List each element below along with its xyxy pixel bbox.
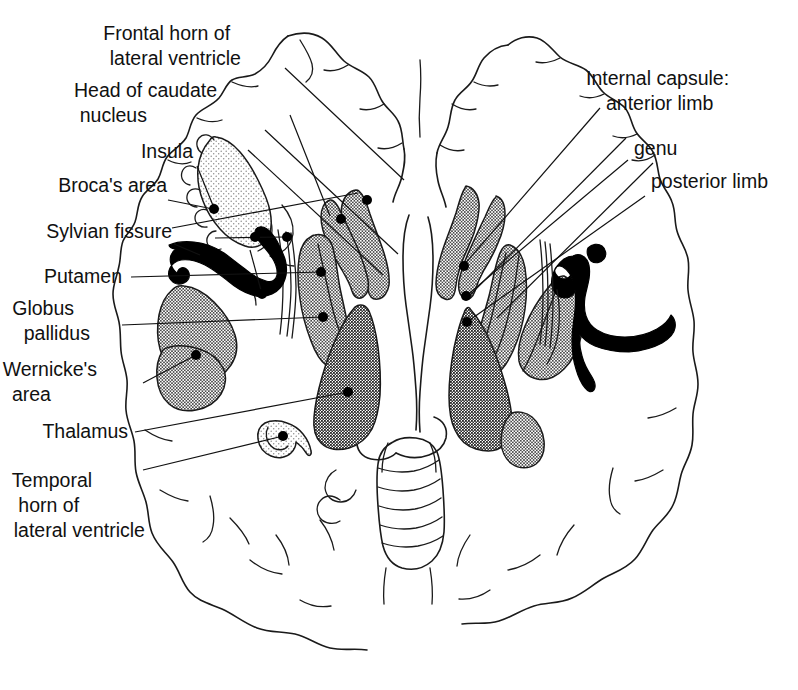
right-medial-fold-2 bbox=[452, 104, 476, 110]
label-frontal-horn-line2: lateral ventricle bbox=[110, 47, 241, 69]
label-internal-capsule: Internal capsule: anterior limb bbox=[586, 67, 767, 114]
right-medial-top-outline bbox=[437, 45, 508, 153]
label-posterior-limb: posterior limb bbox=[651, 170, 768, 192]
right-inferior-fold-2 bbox=[508, 555, 540, 570]
left-temporal-cleft bbox=[203, 496, 214, 542]
peduncle-line-right bbox=[430, 443, 436, 472]
right-temporal-fold-1 bbox=[648, 408, 676, 418]
label-globus-pallidus-line2: pallidus bbox=[24, 322, 90, 344]
left-extreme-capsule-line-2 bbox=[291, 233, 296, 338]
insula-gyral-border-3 bbox=[195, 209, 207, 227]
dot-thalamus-left bbox=[343, 387, 353, 397]
dot-sylvian-junction bbox=[250, 232, 260, 242]
left-inferior-fold-4 bbox=[300, 600, 331, 607]
caudate-tail-right-region bbox=[501, 412, 544, 468]
left-medial-fold-1 bbox=[324, 65, 348, 71]
label-wernickes-area-line2: area bbox=[12, 383, 51, 405]
label-temporal-horn-line1: Temporal bbox=[12, 469, 92, 491]
leader-temporal-horn bbox=[143, 436, 283, 470]
right-temporal-cleft bbox=[609, 468, 620, 514]
label-wernickes-area-line1: Wernicke's bbox=[3, 358, 98, 380]
left-inferior-fold-3 bbox=[320, 520, 334, 550]
label-temporal-horn-line2: horn of bbox=[18, 494, 79, 516]
label-head-of-caudate: Head of caudate nucleus bbox=[74, 79, 255, 126]
dot-wernicke bbox=[191, 350, 201, 360]
left-uncus-hook bbox=[317, 496, 340, 523]
left-temporal-fold-3 bbox=[230, 518, 249, 544]
label-globus-pallidus: Globus pallidus bbox=[12, 297, 117, 344]
label-frontal-horn: Frontal horn of lateral ventricle bbox=[103, 22, 268, 69]
right-temporal-fold-2 bbox=[635, 470, 663, 481]
dot-sylvian-right bbox=[282, 232, 292, 242]
dot-caudate-left-small bbox=[336, 214, 346, 224]
label-head-of-caudate-line2: nucleus bbox=[80, 104, 147, 126]
label-insula: Insula bbox=[141, 140, 193, 162]
labels-right-group: Internal capsule: anterior limb genu pos… bbox=[586, 67, 768, 192]
left-inferior-fold-2 bbox=[276, 535, 289, 565]
medulla-left-edge bbox=[384, 568, 386, 604]
left-medial-top-outline bbox=[288, 33, 404, 149]
third-ventricle-outline-right bbox=[419, 217, 433, 432]
label-thalamus: Thalamus bbox=[42, 420, 128, 442]
left-medial-fold-2 bbox=[360, 104, 384, 110]
dot-putamen-branch bbox=[257, 289, 267, 299]
pons-transverse-fiber-4 bbox=[380, 517, 442, 529]
right-medial-wall bbox=[436, 153, 446, 207]
dot-internal-capsule-anterior bbox=[459, 261, 469, 271]
label-wernickes-area: Wernicke's area bbox=[3, 358, 135, 405]
left-gyrus-fold-2 bbox=[197, 118, 222, 122]
right-inferior-fold-1 bbox=[557, 525, 574, 555]
caudate-tail-right-group bbox=[501, 412, 544, 468]
interhemispheric-fissure bbox=[419, 60, 421, 137]
left-temporal-fold-1 bbox=[145, 430, 172, 441]
left-hippocampus-hook bbox=[325, 470, 356, 502]
label-temporal-horn: Temporal horn of lateral ventricle bbox=[12, 469, 172, 541]
sylvian-right-spur-1 bbox=[587, 244, 606, 262]
label-putamen: Putamen bbox=[44, 265, 122, 287]
label-internal-capsule-line2: anterior limb bbox=[606, 92, 713, 114]
dot-genu bbox=[461, 291, 471, 301]
left-sulcus-fold-2 bbox=[280, 205, 293, 253]
dot-putamen-left bbox=[316, 267, 326, 277]
dot-insula bbox=[209, 204, 219, 214]
label-internal-capsule-line1: Internal capsule: bbox=[586, 67, 729, 89]
left-temporal-fold-2 bbox=[160, 490, 188, 501]
label-temporal-horn-line3: lateral ventricle bbox=[14, 519, 145, 541]
brain-diagram-svg: Frontal horn of lateral ventricle Head o… bbox=[0, 0, 798, 690]
third-ventricle-outline bbox=[403, 215, 417, 430]
dot-temporal-horn bbox=[278, 431, 288, 441]
right-inferior-fold-4 bbox=[457, 535, 470, 566]
right-inferior-fold-3 bbox=[459, 590, 490, 599]
leader-head-of-caudate bbox=[290, 115, 330, 216]
dot-posterior-limb bbox=[462, 317, 472, 327]
pons-transverse-fiber-2 bbox=[378, 479, 440, 491]
label-genu: genu bbox=[634, 137, 677, 159]
left-inferior-fold bbox=[250, 560, 282, 574]
dot-globus-left bbox=[318, 312, 328, 322]
pons-transverse-fiber-3 bbox=[379, 498, 441, 510]
label-sylvian-fissure: Sylvian fissure bbox=[46, 220, 172, 242]
right-gyrus-fold-1 bbox=[536, 58, 560, 63]
right-medial-fold-1 bbox=[474, 82, 498, 86]
label-frontal-horn-line1: Frontal horn of bbox=[103, 22, 230, 44]
label-brocas-area: Broca's area bbox=[58, 174, 167, 196]
label-head-of-caudate-line1: Head of caudate bbox=[74, 79, 217, 101]
leader-frontal-horn bbox=[285, 68, 404, 180]
left-cingulate-notch bbox=[300, 40, 313, 82]
insula-gyral-border bbox=[181, 166, 196, 185]
pons-transverse-fiber-1 bbox=[378, 460, 439, 472]
third-ventricle-group bbox=[403, 215, 433, 432]
label-globus-pallidus-line1: Globus bbox=[12, 297, 74, 319]
right-gyrus-fold-2 bbox=[580, 94, 604, 98]
right-medial-fold-3 bbox=[440, 145, 464, 151]
medulla-right-edge bbox=[430, 568, 432, 604]
globus-pallidus-left-group bbox=[157, 286, 237, 411]
pons-transverse-fiber-5 bbox=[382, 536, 443, 547]
dot-caudate-left-large bbox=[362, 195, 372, 205]
brain-coronal-section-figure: Frontal horn of lateral ventricle Head o… bbox=[0, 0, 798, 690]
left-medial-fold-3 bbox=[378, 143, 402, 149]
